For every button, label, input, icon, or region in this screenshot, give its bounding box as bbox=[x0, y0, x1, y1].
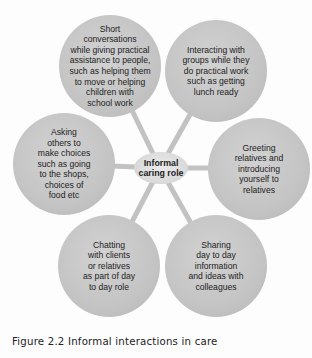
node-bottom-left: Chatting with clients or relatives as pa… bbox=[58, 215, 160, 317]
figure-caption: Figure 2.2 Informal interactions in care bbox=[12, 336, 218, 347]
node-label: Asking others to make choices such as go… bbox=[37, 127, 90, 201]
node-label: Chatting with clients or relatives as pa… bbox=[83, 240, 135, 293]
node-label: Sharing day to day information and ideas… bbox=[189, 240, 244, 293]
center-node: Informal caring role bbox=[134, 152, 188, 184]
node-label: Short conversations while giving practic… bbox=[69, 24, 150, 109]
node-bottom-right: Sharing day to day information and ideas… bbox=[165, 215, 267, 317]
node-right: Greeting relatives and introducing yours… bbox=[208, 118, 310, 220]
center-label: Informal caring role bbox=[139, 158, 184, 179]
diagram: Short conversations while giving practic… bbox=[0, 0, 312, 358]
node-top-right: Interacting with groups while they do pr… bbox=[165, 20, 267, 122]
node-top-left: Short conversations while giving practic… bbox=[59, 15, 161, 117]
node-label: Interacting with groups while they do pr… bbox=[183, 45, 250, 98]
node-left: Asking others to make choices such as go… bbox=[13, 113, 115, 215]
node-label: Greeting relatives and introducing yours… bbox=[235, 143, 284, 196]
